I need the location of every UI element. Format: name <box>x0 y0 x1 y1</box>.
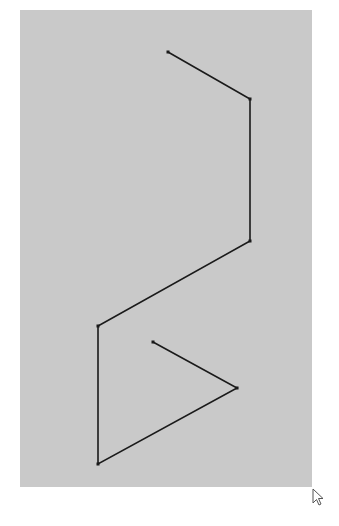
vertex-marker <box>236 387 239 390</box>
arrow-pointer-icon <box>312 488 326 508</box>
vertex-marker <box>249 240 252 243</box>
polyline-drawing <box>0 0 339 526</box>
vertex-marker <box>97 325 100 328</box>
polyline-path <box>98 52 250 464</box>
vertex-marker <box>249 98 252 101</box>
vertex-marker <box>152 341 155 344</box>
vertex-marker <box>97 463 100 466</box>
vertex-marker <box>167 51 170 54</box>
vertex-markers <box>97 51 252 466</box>
